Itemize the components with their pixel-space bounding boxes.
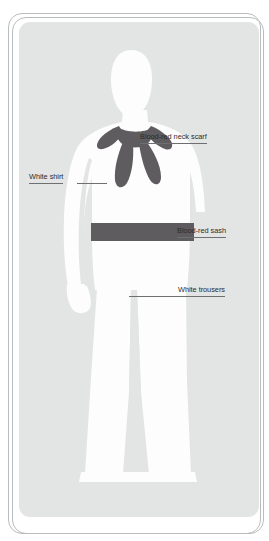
annotation-label-shirt: White shirt [29, 172, 63, 184]
annotation-label-neck-scarf-text: Blood-red neck scarf [140, 132, 207, 144]
illustration-panel [19, 22, 259, 517]
annotation-label-trousers: White trousers [178, 285, 225, 297]
figure-base [79, 472, 197, 482]
costume-design-card: Blood-red neck scarf White shirt Blood-r… [0, 0, 269, 541]
leader-line-shirt [77, 183, 107, 184]
annotation-label-neck-scarf: Blood-red neck scarf [140, 132, 207, 144]
figure-left-hand [67, 284, 91, 313]
figure-trousers-left-leg [85, 288, 131, 474]
leader-line-trousers [129, 296, 178, 297]
annotation-label-sash: Blood-red sash [177, 226, 226, 238]
mannequin-figure-illustration [19, 22, 259, 517]
annotation-label-trousers-text: White trousers [178, 285, 225, 297]
annotation-label-sash-text: Blood-red sash [177, 226, 226, 238]
figure-trousers-right-leg [137, 288, 191, 474]
figure-head [111, 50, 152, 117]
annotation-label-shirt-text: White shirt [29, 172, 63, 184]
